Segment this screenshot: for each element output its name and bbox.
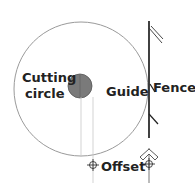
fence-arrow-low-icon	[149, 114, 158, 124]
fence-label: Fence	[153, 81, 195, 94]
fence-arrow-top-icon	[149, 26, 163, 43]
cutting-circle-label-line1: Cutting	[22, 71, 76, 84]
offset-crosshair-icon	[87, 159, 99, 171]
guide-label: Guide	[106, 85, 149, 98]
offset-label: Offset	[101, 160, 145, 173]
cutting-circle-label-line2: circle	[25, 87, 65, 100]
